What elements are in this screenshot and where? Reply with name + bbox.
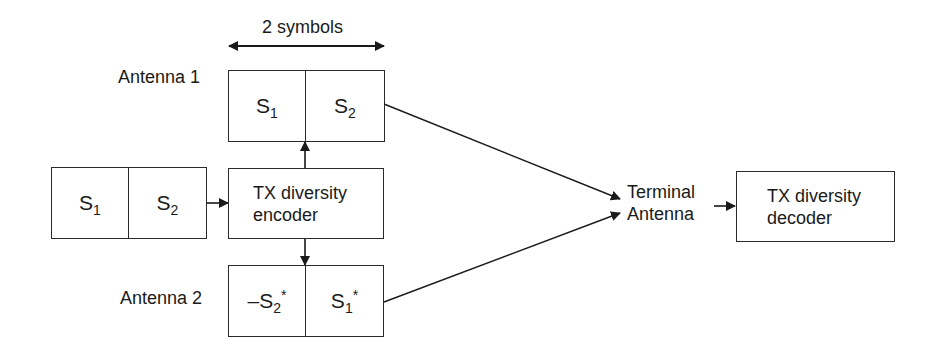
decoder-line2: decoder (767, 207, 894, 229)
terminal-line2: Antenna (627, 203, 695, 225)
antenna2-cell-2: S1* (306, 266, 383, 336)
symbol: S2 (157, 191, 179, 215)
antenna1-to-terminal-arrow (384, 104, 620, 199)
terminal-line1: Terminal (627, 181, 695, 203)
antenna1-cell-2: S2 (306, 71, 384, 141)
tx-diversity-encoder-block: TX diversity encoder (228, 168, 384, 239)
antenna2-to-terminal-arrow (384, 213, 620, 302)
symbol: –S2* (248, 289, 287, 313)
antenna2-symbol-block: –S2* S1* (228, 265, 384, 337)
input-symbol-block: S1 S2 (51, 167, 207, 239)
symbol: S2 (334, 94, 356, 118)
stbc-diagram: 2 symbols Antenna 1 S1 S2 S1 S2 TX diver… (0, 0, 942, 361)
decoder-text: TX diversity decoder (737, 172, 894, 241)
symbol: S1 (79, 191, 101, 215)
symbol: S1 (256, 94, 278, 118)
antenna2-label: Antenna 2 (120, 288, 202, 310)
antenna1-symbol-block: S1 S2 (228, 70, 385, 142)
tx-diversity-decoder-block: TX diversity decoder (736, 171, 895, 242)
antenna1-cell-1: S1 (229, 71, 306, 141)
encoder-line1: TX diversity (253, 182, 383, 204)
decoder-line1: TX diversity (767, 185, 894, 207)
symbol-width-label: 2 symbols (262, 17, 343, 39)
terminal-antenna-label: Terminal Antenna (627, 181, 695, 225)
symbol: S1* (331, 289, 358, 313)
input-cell-1: S1 (52, 168, 129, 238)
input-cell-2: S2 (129, 168, 206, 238)
encoder-text: TX diversity encoder (229, 169, 383, 238)
encoder-line2: encoder (253, 204, 383, 226)
antenna2-cell-1: –S2* (229, 266, 306, 336)
antenna1-label: Antenna 1 (118, 67, 200, 89)
